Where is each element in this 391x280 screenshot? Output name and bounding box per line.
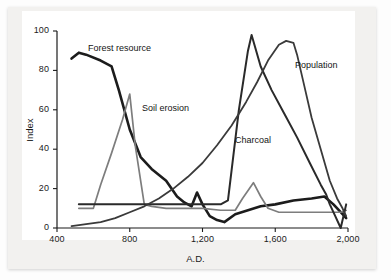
y-axis-title: Index <box>24 118 35 141</box>
y-tick-label: 100 <box>0 25 49 35</box>
chart-figure: Index 4008001,2001,6002,000 020406080100… <box>0 0 391 280</box>
series-label-charcoal: Charcoal <box>235 135 271 145</box>
x-tick-label: 2,000 <box>308 234 388 244</box>
x-axis-title: A.D. <box>0 253 391 264</box>
x-tick-label: 400 <box>17 234 97 244</box>
y-tick-label: 40 <box>0 143 49 153</box>
series-label-soil-erosion: Soil erosion <box>142 103 189 113</box>
series-label-population: Population <box>295 60 338 70</box>
series-line-soil-erosion <box>79 94 346 212</box>
x-tick-label: 800 <box>90 234 170 244</box>
y-tick-label: 80 <box>0 64 49 74</box>
y-tick-label: 60 <box>0 104 49 114</box>
y-tick-label: 20 <box>0 183 49 193</box>
series-label-forest-resource: Forest resource <box>88 43 151 53</box>
y-tick-label: 0 <box>0 222 49 232</box>
x-tick-label: 1,600 <box>235 234 315 244</box>
series-line-forest-resource <box>72 53 347 222</box>
x-tick-label: 1,200 <box>163 234 243 244</box>
